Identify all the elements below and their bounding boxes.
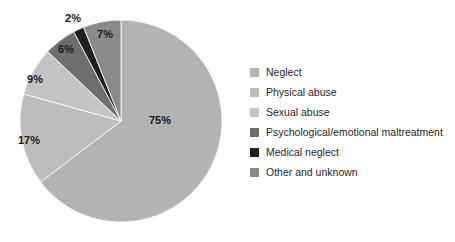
legend-item[interactable]: Physical abuse — [250, 82, 455, 102]
pie-chart-plot-area: 75%17%9%6%2%7% — [0, 0, 245, 242]
legend-swatch-icon — [250, 88, 259, 97]
legend-item-label: Other and unknown — [266, 166, 358, 178]
pie-slice-label: 17% — [18, 134, 40, 146]
pie-chart-svg: 75%17%9%6%2%7% — [0, 0, 245, 242]
pie-slice-label: 6% — [58, 43, 74, 55]
legend-swatch-icon — [250, 168, 259, 177]
pie-slice-label: 7% — [97, 28, 113, 40]
legend-swatch-icon — [250, 68, 259, 77]
legend-swatch-icon — [250, 108, 259, 117]
legend-item[interactable]: Other and unknown — [250, 162, 455, 182]
legend-item[interactable]: Neglect — [250, 62, 455, 82]
legend-item-label: Medical neglect — [266, 146, 339, 158]
legend-item-label: Sexual abuse — [266, 106, 330, 118]
chart-legend: NeglectPhysical abuseSexual abusePsychol… — [250, 62, 455, 182]
legend-item-label: Psychological/emotional maltreatment — [266, 126, 443, 138]
legend-swatch-icon — [250, 148, 259, 157]
legend-item[interactable]: Medical neglect — [250, 142, 455, 162]
legend-item[interactable]: Psychological/emotional maltreatment — [250, 122, 455, 142]
legend-item-label: Neglect — [266, 66, 302, 78]
pie-chart-figure: 75%17%9%6%2%7% NeglectPhysical abuseSexu… — [0, 0, 455, 242]
pie-slice-label: 2% — [65, 12, 81, 24]
legend-item[interactable]: Sexual abuse — [250, 102, 455, 122]
pie-slice-label: 9% — [27, 73, 43, 85]
pie-slice-label: 75% — [149, 114, 171, 126]
legend-item-label: Physical abuse — [266, 86, 337, 98]
legend-swatch-icon — [250, 128, 259, 137]
